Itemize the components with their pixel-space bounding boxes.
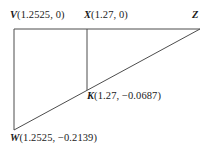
vertex-coords-W: (1.2525, −0.2139)	[19, 132, 97, 143]
vertex-label-X: X(1.27, 0)	[84, 10, 128, 21]
geometry-figure: V(1.2525, 0) X(1.27, 0) Z K(1.27, −0.068…	[0, 0, 213, 161]
vertex-label-K: K(1.27, −0.0687)	[87, 91, 161, 102]
vertex-label-V: V(1.2525, 0)	[10, 10, 65, 21]
vertex-label-Z: Z	[192, 10, 199, 21]
vertex-coords-V: (1.2525, 0)	[17, 9, 64, 20]
vertex-label-W: W(1.2525, −0.2139)	[10, 133, 97, 144]
vertex-name-Z: Z	[192, 9, 199, 20]
segment-W-to-Z	[14, 29, 200, 130]
vertex-coords-X: (1.27, 0)	[91, 9, 128, 20]
vertex-coords-K: (1.27, −0.0687)	[94, 90, 161, 101]
